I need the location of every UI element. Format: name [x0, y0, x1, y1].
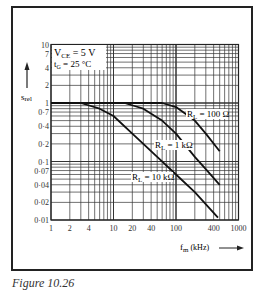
- x-axis-label: fm (kHz): [180, 242, 209, 254]
- svg-text:0·07: 0·07: [34, 167, 49, 176]
- svg-text:1: 1: [49, 224, 53, 233]
- svg-text:40: 40: [147, 224, 155, 233]
- y-arrowhead-icon: [25, 62, 30, 70]
- y-axis-label: srel: [21, 92, 32, 103]
- grid: [51, 45, 239, 221]
- svg-text:1000: 1000: [231, 224, 247, 233]
- svg-text:7: 7: [45, 50, 49, 59]
- svg-text:100: 100: [170, 224, 182, 233]
- y-tick-labels: 1074210·70·40·20·10·070·040·020·01: [34, 41, 49, 226]
- x-arrowhead-icon: [237, 246, 244, 251]
- svg-text:0·02: 0·02: [34, 198, 49, 207]
- svg-text:2: 2: [45, 81, 49, 90]
- svg-text:0·2: 0·2: [38, 140, 49, 149]
- svg-text:0·1: 0·1: [38, 158, 49, 167]
- curve-label-1kohm: RL = 1 kΩ: [155, 140, 193, 152]
- svg-text:20: 20: [128, 224, 136, 233]
- svg-text:0·04: 0·04: [34, 181, 49, 190]
- svg-text:1: 1: [45, 99, 49, 108]
- svg-text:4: 4: [87, 224, 91, 233]
- svg-text:10: 10: [110, 224, 118, 233]
- x-tick-labels: 1241020401004001000: [49, 224, 247, 233]
- svg-text:2: 2: [68, 224, 72, 233]
- svg-text:0·7: 0·7: [38, 108, 49, 117]
- svg-text:400: 400: [208, 224, 220, 233]
- figure-caption: Figure 10.26: [12, 276, 74, 291]
- svg-text:0·4: 0·4: [38, 122, 49, 131]
- svg-text:4: 4: [45, 64, 49, 73]
- svg-text:10: 10: [41, 41, 49, 50]
- svg-text:0·01: 0·01: [34, 216, 49, 225]
